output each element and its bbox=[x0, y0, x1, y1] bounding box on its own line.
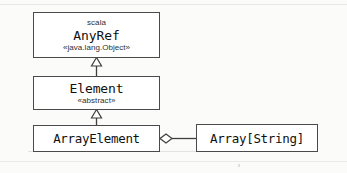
page-rule-top bbox=[0, 4, 347, 5]
generalization-element-to-anyref bbox=[92, 58, 102, 77]
class-stereotype-anyref: «java.lang.Object» bbox=[63, 43, 130, 53]
class-box-element: Element «abstract» bbox=[33, 76, 160, 110]
class-name-element: Element bbox=[69, 81, 123, 96]
hollow-diamond-arrowhead-arrayelement bbox=[160, 134, 172, 143]
hollow-triangle-arrowhead-anyref bbox=[92, 58, 102, 67]
class-package-anyref: scala bbox=[87, 18, 106, 28]
page-rule-bottom bbox=[0, 161, 347, 162]
class-name-arrayelement: ArrayElement bbox=[53, 131, 140, 146]
class-box-anyref: scala AnyRef «java.lang.Object» bbox=[33, 12, 160, 58]
class-box-arraystring: Array[String] bbox=[196, 124, 318, 152]
class-box-arrayelement: ArrayElement bbox=[33, 125, 160, 152]
aggregation-arrayelement-to-arraystring bbox=[160, 134, 196, 143]
page-speck bbox=[238, 164, 240, 167]
class-name-anyref: AnyRef bbox=[73, 28, 119, 43]
class-stereotype-element: «abstract» bbox=[78, 96, 116, 106]
hollow-triangle-arrowhead-element bbox=[92, 110, 102, 119]
generalization-arrayelement-to-element bbox=[92, 110, 102, 126]
class-name-arraystring: Array[String] bbox=[210, 131, 304, 146]
uml-class-diagram: scala AnyRef «java.lang.Object» Element … bbox=[0, 0, 347, 173]
